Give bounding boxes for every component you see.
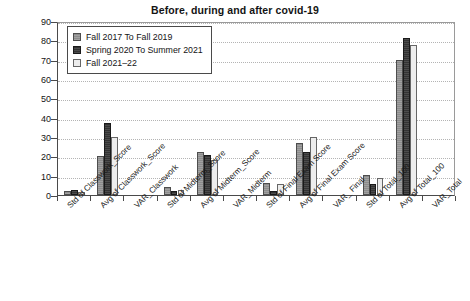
legend-item-label: Fall 2021–22 (86, 58, 137, 68)
legend-item[interactable]: Fall 2021–22 (73, 56, 203, 69)
x-tick-mark (157, 196, 158, 201)
bar (410, 45, 417, 195)
legend-item[interactable]: Spring 2020 To Summer 2021 (73, 43, 203, 56)
legend-swatch-icon (73, 59, 81, 67)
chart-title: Before, during and after covid-19 (0, 4, 470, 16)
x-tick-mark (90, 196, 91, 201)
x-tick-mark (422, 196, 423, 201)
gridline (58, 23, 454, 24)
y-tick-label: 40 (11, 114, 51, 124)
y-tick-label: 90 (11, 17, 51, 27)
y-tick-label: 10 (11, 172, 51, 182)
legend: Fall 2017 To Fall 2019Spring 2020 To Sum… (67, 26, 212, 74)
x-tick-mark (57, 196, 58, 201)
y-tick-label: 80 (11, 36, 51, 46)
legend-swatch-icon (73, 46, 81, 54)
y-tick-label: 50 (11, 94, 51, 104)
y-tick-label: 30 (11, 133, 51, 143)
legend-item-label: Fall 2017 To Fall 2019 (86, 32, 172, 42)
y-tick-label: 60 (11, 75, 51, 85)
x-tick-mark (389, 196, 390, 201)
bar-chart: Before, during and after covid-19 010203… (0, 0, 470, 301)
x-tick-mark (322, 196, 323, 201)
bar (64, 191, 71, 195)
legend-swatch-icon (73, 33, 81, 41)
x-tick-mark (289, 196, 290, 201)
gridline (58, 100, 454, 101)
bar (363, 175, 370, 195)
y-tick-label: 70 (11, 56, 51, 66)
bar (263, 183, 270, 195)
gridline (58, 81, 454, 82)
bar (164, 187, 171, 195)
x-tick-mark (123, 196, 124, 201)
legend-item-label: Spring 2020 To Summer 2021 (86, 45, 203, 55)
gridline (58, 120, 454, 121)
y-tick-label: 0 (11, 191, 51, 201)
legend-item[interactable]: Fall 2017 To Fall 2019 (73, 30, 203, 43)
x-tick-mark (190, 196, 191, 201)
x-tick-mark (223, 196, 224, 201)
x-tick-mark (256, 196, 257, 201)
x-tick-mark (356, 196, 357, 201)
x-tick-mark (455, 196, 456, 201)
y-tick-label: 20 (11, 152, 51, 162)
